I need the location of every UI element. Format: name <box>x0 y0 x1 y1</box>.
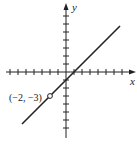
point-label: (−2, −3) <box>9 92 42 104</box>
y-axis-arrow-icon <box>64 3 69 10</box>
graph-line <box>22 26 120 124</box>
x-axis-label: x <box>129 75 135 87</box>
open-circle-point <box>48 94 53 99</box>
x-axis-arrow-icon <box>129 70 136 75</box>
y-axis <box>64 3 69 138</box>
coordinate-plane: y x (−2, −3) <box>0 0 137 144</box>
y-axis-label: y <box>71 1 77 13</box>
